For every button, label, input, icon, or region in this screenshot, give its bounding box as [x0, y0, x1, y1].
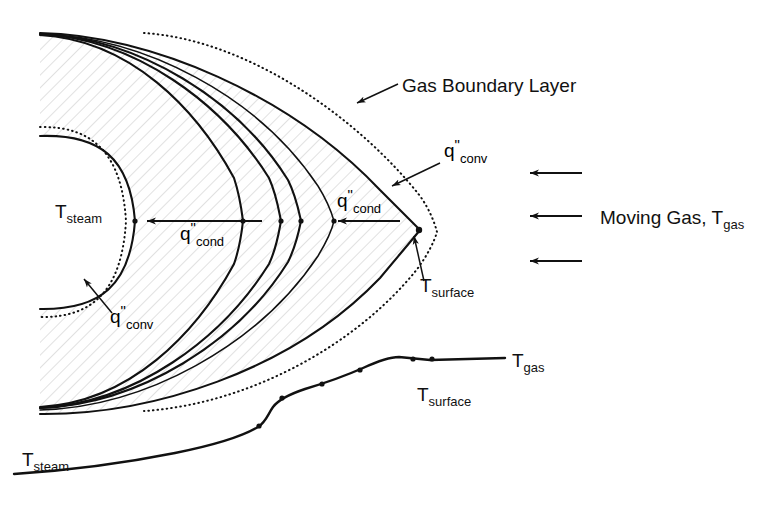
svg-text:Tgas: Tgas — [512, 350, 545, 375]
label-q-conv-outer: q"conv — [444, 136, 488, 166]
t-steam-subscript: steam — [67, 211, 102, 226]
svg-text:Tsurface: Tsurface — [417, 384, 471, 409]
svg-text:Tsurface: Tsurface — [420, 275, 474, 300]
t-surface-profile-text: T — [417, 384, 429, 405]
vertex-dot-4 — [298, 218, 303, 223]
svg-text:q"conv: q"conv — [444, 136, 488, 166]
t-steam-text: T — [55, 201, 67, 222]
label-gas-boundary-layer: Gas Boundary Layer — [402, 75, 577, 96]
moving-gas-subscript: gas — [723, 217, 744, 232]
label-moving-gas: Moving Gas, Tgas — [600, 207, 745, 232]
q-conv-outer-leader — [392, 163, 440, 186]
svg-text:Tsteam: Tsteam — [55, 201, 102, 226]
q-cond-inner-subscript: cond — [196, 234, 224, 249]
profile-marker-1 — [256, 423, 261, 428]
q-cond-inner-q: q — [180, 223, 191, 244]
q-conv-outer-subscript: conv — [460, 151, 488, 166]
vertex-dot-1 — [132, 218, 137, 223]
q-conv-outer-q: q — [444, 140, 455, 161]
label-t-steam-region: Tsteam — [55, 201, 102, 226]
profile-marker-3 — [319, 381, 324, 386]
t-gas-profile-text: T — [512, 350, 524, 371]
heat-transfer-diagram: Gas Boundary Layer Moving Gas, Tgas Tste… — [0, 0, 779, 515]
q-cond-outer-q: q — [337, 190, 348, 211]
vertex-dot-5 — [331, 218, 336, 223]
vertex-dot-3 — [278, 218, 283, 223]
figure-root: Gas Boundary Layer Moving Gas, Tgas Tste… — [0, 0, 779, 515]
t-surface-callout-subscript: surface — [432, 285, 475, 300]
q-cond-outer-subscript: cond — [353, 201, 381, 216]
profile-marker-2 — [279, 395, 284, 400]
vertex-dot-surface — [416, 227, 422, 233]
moving-gas-text: Moving Gas, T — [600, 207, 724, 228]
t-steam-profile-text: T — [22, 449, 34, 470]
t-surface-profile-subscript: surface — [429, 394, 472, 409]
q-conv-inner-q: q — [110, 306, 121, 327]
label-t-steam-profile: Tsteam — [22, 449, 69, 474]
q-conv-inner-subscript: conv — [126, 317, 154, 332]
label-t-surface-callout: Tsurface — [420, 275, 474, 300]
svg-text:Tsteam: Tsteam — [22, 449, 69, 474]
svg-text:Moving Gas, Tgas: Moving Gas, Tgas — [600, 207, 745, 232]
profile-marker-4 — [357, 367, 362, 372]
profile-marker-5 — [410, 356, 415, 361]
label-t-gas-profile: Tgas — [512, 350, 545, 375]
gas-boundary-layer-leader — [357, 84, 398, 103]
t-surface-callout-text: T — [420, 275, 432, 296]
t-steam-profile-subscript: steam — [34, 459, 69, 474]
label-t-surface-profile: Tsurface — [417, 384, 471, 409]
t-gas-profile-subscript: gas — [524, 360, 545, 375]
profile-marker-6 — [429, 356, 434, 361]
